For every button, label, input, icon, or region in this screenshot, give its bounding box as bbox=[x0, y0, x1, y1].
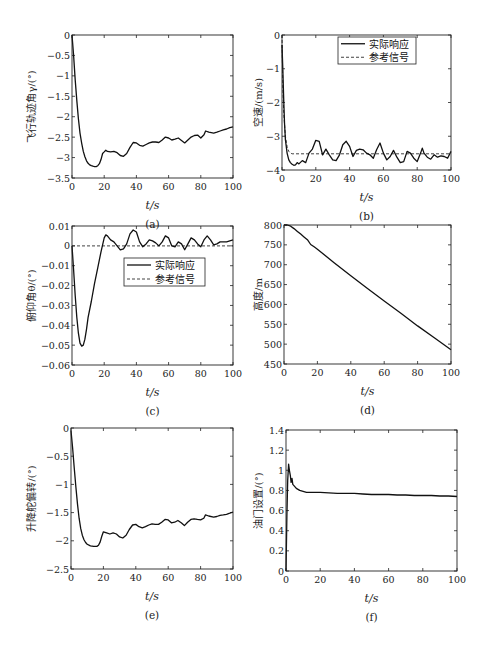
x-axis-label: t/s bbox=[145, 590, 159, 603]
x-tick-label: 100 bbox=[224, 368, 242, 379]
y-tick-label: −2 bbox=[56, 111, 70, 122]
y-tick-label: −1.5 bbox=[46, 507, 69, 518]
x-tick-label: 100 bbox=[442, 173, 460, 184]
x-tick-label: 60 bbox=[163, 181, 175, 192]
y-tick-label: 550 bbox=[264, 319, 282, 330]
y-tick-label: −1 bbox=[56, 70, 70, 81]
axes-frame bbox=[284, 225, 451, 364]
x-tick-label: 80 bbox=[417, 574, 429, 585]
x-axis-label: t/s bbox=[361, 385, 375, 398]
figure-canvas: 0204060801000−0.5−1−1.5−2−2.5−3−3.5t/s(a… bbox=[0, 0, 488, 649]
axes-frame bbox=[71, 428, 233, 569]
x-tick-label: 100 bbox=[224, 181, 242, 192]
x-tick-label: 60 bbox=[383, 574, 395, 585]
y-axis-label: 油门设置/(°) bbox=[252, 472, 264, 528]
y-tick-label: −0.05 bbox=[41, 340, 70, 351]
y-tick-label: −0.5 bbox=[46, 451, 69, 462]
y-tick-label: −0.5 bbox=[47, 50, 70, 61]
legend: 实际响应参考信号 bbox=[124, 258, 205, 286]
subplot-f: 0204060801001.41.210.80.60.40.20t/s(f)油门… bbox=[252, 425, 466, 624]
x-tick-label: 20 bbox=[97, 572, 109, 583]
legend-entry-label: 参考信号 bbox=[369, 51, 409, 63]
series-response bbox=[72, 35, 233, 167]
x-tick-label: 80 bbox=[195, 181, 207, 192]
subplot-c: 0204060801000.010−0.01−0.02−0.03−0.04−0.… bbox=[25, 221, 242, 418]
x-tick-label: 80 bbox=[195, 368, 207, 379]
subplot-caption: (d) bbox=[360, 404, 375, 416]
x-tick-label: 100 bbox=[442, 367, 460, 378]
y-tick-label: −0.03 bbox=[41, 300, 70, 311]
axes-frame bbox=[72, 35, 233, 178]
x-tick-label: 80 bbox=[412, 367, 424, 378]
y-tick-label: −1 bbox=[266, 63, 280, 74]
x-tick-label: 60 bbox=[377, 173, 389, 184]
y-axis-label: 飞行轨迹角γ/(°) bbox=[25, 70, 37, 142]
y-tick-label: −2 bbox=[266, 97, 280, 108]
x-tick-label: 20 bbox=[310, 173, 322, 184]
y-tick-label: −1.5 bbox=[47, 91, 70, 102]
x-tick-label: 20 bbox=[98, 368, 110, 379]
y-tick-label: 1 bbox=[278, 465, 284, 476]
x-tick-label: 100 bbox=[224, 572, 242, 583]
x-axis-label: t/s bbox=[146, 386, 160, 399]
x-tick-label: 80 bbox=[411, 173, 423, 184]
x-tick-label: 40 bbox=[345, 367, 357, 378]
y-tick-label: 500 bbox=[264, 339, 282, 350]
y-tick-label: −0.04 bbox=[41, 320, 70, 331]
y-tick-label: 0.2 bbox=[269, 545, 284, 556]
x-tick-label: 40 bbox=[344, 173, 356, 184]
legend-entry-label: 实际响应 bbox=[155, 259, 195, 271]
axes-frame bbox=[286, 430, 457, 571]
series-response bbox=[284, 225, 451, 350]
y-tick-label: 0.6 bbox=[269, 505, 284, 516]
x-tick-label: 60 bbox=[163, 368, 175, 379]
y-tick-label: 650 bbox=[264, 279, 282, 290]
x-tick-label: 40 bbox=[130, 368, 142, 379]
y-tick-label: 750 bbox=[264, 239, 282, 250]
y-tick-label: 1.2 bbox=[269, 445, 284, 456]
y-tick-label: −2.5 bbox=[47, 132, 70, 143]
y-tick-label: 0 bbox=[278, 566, 284, 577]
x-tick-label: 20 bbox=[311, 367, 323, 378]
y-tick-label: 700 bbox=[264, 259, 282, 270]
y-tick-label: 450 bbox=[264, 359, 282, 370]
series-response bbox=[72, 230, 233, 346]
y-tick-label: −3 bbox=[266, 131, 280, 142]
y-tick-label: 0 bbox=[64, 240, 70, 251]
subplot-caption: (e) bbox=[145, 609, 159, 621]
y-tick-label: 0.4 bbox=[269, 525, 284, 536]
y-axis-label: 升降舵偏转/(°) bbox=[25, 465, 37, 531]
y-tick-label: 0.01 bbox=[49, 221, 70, 232]
subplot-d: 020406080100800750700650600550500450t/s(… bbox=[252, 220, 460, 417]
x-tick-label: 40 bbox=[130, 181, 142, 192]
y-tick-label: 0.8 bbox=[269, 485, 284, 496]
x-tick-label: 80 bbox=[195, 572, 207, 583]
y-tick-label: 800 bbox=[264, 220, 282, 231]
y-tick-label: −2 bbox=[55, 535, 69, 546]
subplot-caption: (f) bbox=[365, 611, 377, 623]
y-tick-label: −3 bbox=[56, 152, 70, 163]
subplot-e: 0204060801000−0.5−1−1.5−2−2.5t/s(e)升降舵偏转… bbox=[25, 423, 242, 622]
x-tick-label: 100 bbox=[448, 574, 466, 585]
legend: 实际响应参考信号 bbox=[338, 37, 416, 64]
y-tick-label: −0.01 bbox=[41, 260, 70, 271]
x-tick-label: 60 bbox=[378, 367, 390, 378]
y-tick-label: −1 bbox=[55, 479, 69, 490]
x-tick-label: 60 bbox=[162, 572, 174, 583]
series-response bbox=[286, 464, 457, 571]
subplot-b: 0204060801000−1−2−3−4实际响应参考信号t/s(b)空速/(m… bbox=[252, 30, 460, 223]
y-tick-label: 0 bbox=[64, 30, 70, 41]
x-tick-label: 40 bbox=[130, 572, 142, 583]
y-axis-label: 空速/(m/s) bbox=[252, 78, 264, 127]
y-tick-label: 0 bbox=[63, 423, 69, 434]
subplot-caption: (b) bbox=[359, 210, 374, 222]
y-tick-label: 600 bbox=[264, 299, 282, 310]
y-axis-label: 俯仰角θ/(°) bbox=[25, 269, 37, 321]
x-tick-label: 20 bbox=[98, 181, 110, 192]
y-tick-label: −4 bbox=[266, 165, 280, 176]
legend-entry-label: 参考信号 bbox=[155, 273, 195, 285]
x-axis-label: t/s bbox=[146, 199, 160, 212]
y-tick-label: 0 bbox=[274, 30, 280, 41]
y-tick-label: −0.02 bbox=[41, 280, 70, 291]
y-axis-label: 高度/m bbox=[252, 278, 264, 311]
